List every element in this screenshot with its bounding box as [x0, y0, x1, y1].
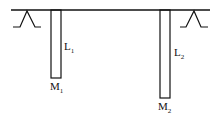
rod-2-length-label: L2	[174, 46, 185, 61]
rod-1-mass-label: M1	[50, 80, 64, 95]
rod-2-mass-label: M2	[158, 100, 172, 115]
rod-2	[160, 10, 170, 98]
right-support-icon	[180, 11, 208, 27]
pendulum-diagram: L1 M1 L2 M2	[0, 0, 219, 119]
rod-1	[51, 10, 61, 78]
rod-1-length-label: L1	[64, 40, 75, 55]
left-support-icon	[13, 11, 41, 27]
